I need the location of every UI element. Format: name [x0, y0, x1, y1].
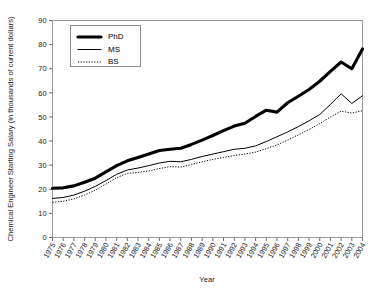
line-chart: 1975197619771978197919801981198219831984… [0, 0, 388, 288]
y-tick-label: 70 [38, 64, 46, 73]
legend-frame [71, 26, 141, 67]
legend-label-phd: PhD [108, 32, 124, 41]
x-axis-title: Year [199, 275, 215, 284]
y-tick-label: 10 [38, 209, 46, 218]
y-tick-label: 60 [38, 89, 46, 98]
legend-label-ms: MS [108, 45, 120, 54]
y-axis-title: Chemical Engineer Starting Salary (in th… [6, 16, 15, 241]
y-tick-label: 80 [38, 40, 46, 49]
legend-label-bs: BS [108, 57, 119, 66]
y-tick-label: 0 [42, 233, 46, 242]
chart-legend: PhDMSBS [71, 26, 141, 67]
y-tick-label: 20 [38, 185, 46, 194]
y-tick-label: 50 [38, 113, 46, 122]
chart-figure: 1975197619771978197919801981198219831984… [0, 0, 388, 288]
y-tick-label: 90 [38, 16, 46, 25]
y-tick-label: 40 [38, 137, 46, 146]
y-tick-label: 30 [38, 161, 46, 170]
